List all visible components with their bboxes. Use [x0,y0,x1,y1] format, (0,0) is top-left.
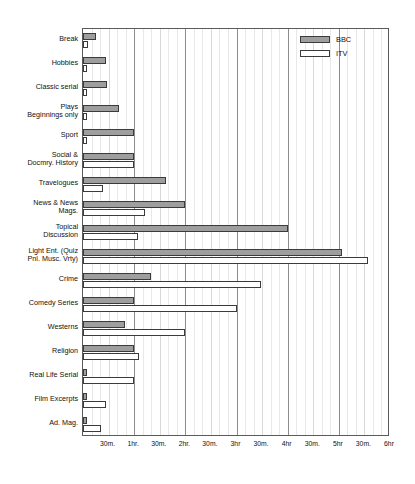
bar-itv[interactable] [83,41,88,48]
bar-itv[interactable] [83,305,237,312]
y-axis-label: Film Excerpts [0,395,78,403]
bar-itv[interactable] [83,377,134,384]
x-axis-tick-label: 30m. [356,440,371,447]
x-axis-tick-label: 3hr [231,440,241,447]
y-axis-label: Sport [0,131,78,139]
legend-label: ITV [336,49,348,58]
bar-itv[interactable] [83,65,87,72]
bar-row [83,269,388,293]
bar-bbc[interactable] [83,273,151,280]
bar-row [83,293,388,317]
bar-row [83,77,388,101]
y-axis-label: Real Life Serial [0,371,78,379]
bar-itv[interactable] [83,329,185,336]
bar-bbc[interactable] [83,393,87,400]
x-axis-tick-label: 30m. [100,440,115,447]
x-axis-tick-label: 30m. [151,440,166,447]
y-axis-label: Break [0,35,78,43]
x-axis-labels: 30m.1hr.30m.2hr.30m.3hr30m.4hr30m.5hr30m… [0,440,415,456]
chart-legend: BBCITV [300,34,351,62]
bar-bbc[interactable] [83,225,288,232]
bar-itv[interactable] [83,281,261,288]
legend-swatch-bbc [300,36,330,43]
y-axis-label: Crime [0,275,78,283]
x-axis-tick-label: 4hr [282,440,292,447]
bar-bbc[interactable] [83,297,134,304]
bar-itv[interactable] [83,209,145,216]
bar-row [83,125,388,149]
x-axis-tick-label: 30m. [202,440,217,447]
bar-bbc[interactable] [83,129,134,136]
bar-bbc[interactable] [83,249,342,256]
bar-row [83,173,388,197]
bar-itv[interactable] [83,89,87,96]
x-axis-tick-label: 5hr [333,440,343,447]
legend-label: BBC [336,35,351,44]
bar-bbc[interactable] [83,417,87,424]
bar-bbc[interactable] [83,177,166,184]
plot-area [82,28,389,436]
legend-entry-bbc[interactable]: BBC [300,34,351,45]
y-axis-label: Hobbies [0,59,78,67]
y-axis-label: Travelogues [0,179,78,187]
y-axis-label: Plays Beginnings only [0,103,78,120]
y-axis-label: News & News Mags. [0,199,78,216]
bar-bbc[interactable] [83,345,134,352]
bar-row [83,197,388,221]
bar-row [83,413,388,436]
y-axis-label: Light Ent. (Quiz Pnl. Musc. Vrty) [0,247,78,264]
x-axis-tick-label: 30m. [305,440,320,447]
bar-bbc[interactable] [83,153,134,160]
y-axis-label: Classic serial [0,83,78,91]
bar-itv[interactable] [83,185,103,192]
bar-itv[interactable] [83,353,139,360]
y-axis-labels: BreakHobbiesClassic serialPlays Beginnin… [0,28,78,436]
y-axis-label: Social & Docmry. History [0,151,78,168]
bar-row [83,341,388,365]
bar-row [83,365,388,389]
y-axis-label: Religion [0,347,78,355]
bar-itv[interactable] [83,425,101,432]
bar-bbc[interactable] [83,81,107,88]
bar-rows [83,29,388,435]
bar-row [83,317,388,341]
chart-container: BreakHobbiesClassic serialPlays Beginnin… [0,0,415,484]
bar-itv[interactable] [83,257,368,264]
y-axis-label: Ad. Mag. [0,419,78,427]
x-axis-tick-label: 6hr [384,440,394,447]
bar-row [83,389,388,413]
legend-entry-itv[interactable]: ITV [300,48,351,59]
bar-row [83,101,388,125]
bar-row [83,245,388,269]
bar-bbc[interactable] [83,201,185,208]
bar-bbc[interactable] [83,33,96,40]
bar-bbc[interactable] [83,57,106,64]
x-axis-tick-label: 2hr. [179,440,190,447]
bar-row [83,149,388,173]
bar-itv[interactable] [83,137,87,144]
bar-row [83,221,388,245]
y-axis-label: Comedy Series [0,299,78,307]
legend-swatch-itv [300,50,330,57]
bar-bbc[interactable] [83,321,125,328]
bar-bbc[interactable] [83,369,87,376]
y-axis-label: Westerns [0,323,78,331]
bar-itv[interactable] [83,161,134,168]
x-axis-tick-label: 1hr. [127,440,138,447]
bar-itv[interactable] [83,401,106,408]
bar-itv[interactable] [83,233,138,240]
y-axis-label: Topical Discussion [0,223,78,240]
bar-itv[interactable] [83,113,87,120]
bar-bbc[interactable] [83,105,119,112]
x-axis-tick-label: 30m. [254,440,269,447]
